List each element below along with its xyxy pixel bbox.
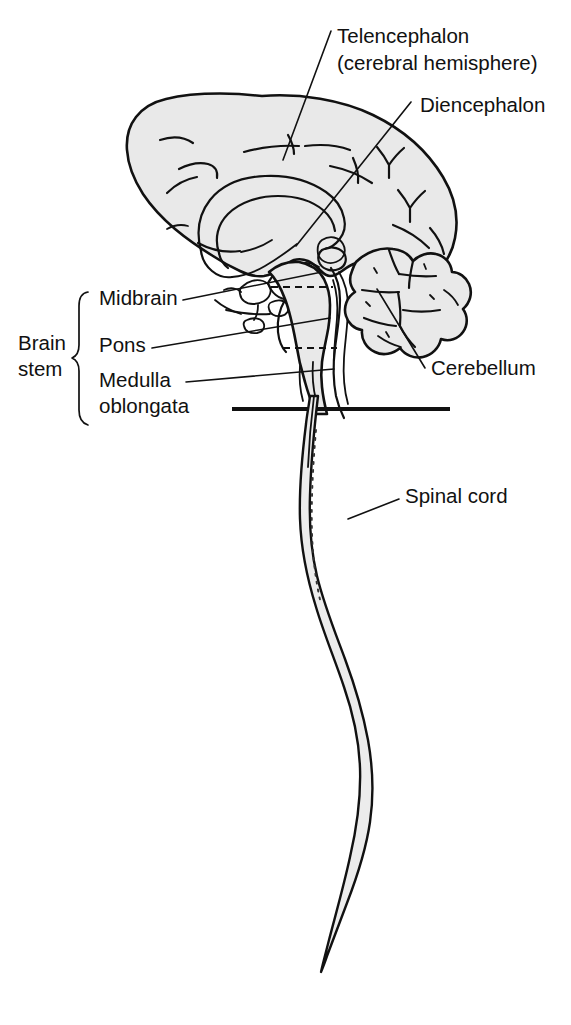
spinal-cord-structure [300,396,373,972]
label-spinal-cord: Spinal cord [405,484,508,507]
brain-anatomy-diagram: Telencephalon (cerebral hemisphere) Dien… [0,0,571,1025]
basal-line [215,300,241,314]
label-medulla-line1: Medulla [99,368,171,391]
label-pons: Pons [99,333,146,356]
spinal-cord-outline [300,396,373,972]
brain-stem-bracket [72,292,88,425]
label-diencephalon: Diencephalon [420,93,545,116]
label-cerebellum: Cerebellum [431,356,536,379]
brain-diagram-canvas: Telencephalon (cerebral hemisphere) Dien… [0,0,571,1025]
label-brain-stem-line2: stem [18,357,62,380]
brace-curly [72,292,88,425]
leader-spinal-cord [348,499,399,519]
label-midbrain: Midbrain [99,286,178,309]
label-telencephalon-line2: (cerebral hemisphere) [337,51,538,74]
label-brain-stem-line1: Brain [18,331,66,354]
label-telencephalon-line1: Telencephalon [337,24,469,47]
label-medulla-line2: oblongata [99,394,190,417]
brainstem-right-margin [331,268,344,418]
